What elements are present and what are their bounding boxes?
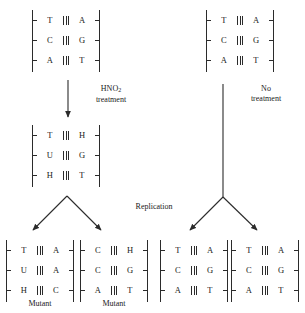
base-right: H xyxy=(126,246,135,255)
backbone-tick-left xyxy=(32,175,37,176)
base-pair-row: H C xyxy=(6,283,74,297)
dna-ladder-bottom-4: T A C G A T xyxy=(231,240,299,302)
left-replication-arrow-2 xyxy=(67,196,101,230)
backbone-tick-right xyxy=(143,290,148,291)
base-right: A xyxy=(78,16,87,25)
hydrogen-bonds xyxy=(63,36,69,45)
base-left: C xyxy=(219,36,228,45)
backbone-tick-left xyxy=(206,40,211,41)
replication-label: Replication xyxy=(124,202,184,212)
backbone-tick-right xyxy=(223,290,228,291)
hydrogen-bonds xyxy=(262,246,268,255)
base-pair-row: C H xyxy=(80,243,148,257)
backbone-tick-left xyxy=(80,250,85,251)
dna-ladder-bottom-2: C H C G A T xyxy=(80,240,148,302)
backbone-tick-left xyxy=(206,20,211,21)
dna-mutagenesis-figure: T A C G A T T A xyxy=(0,0,305,313)
dna-ladder-top-right: T A C G A T xyxy=(206,10,274,72)
backbone-tick-right xyxy=(223,270,228,271)
dna-ladder-middle-left: T H U G H T xyxy=(32,125,100,187)
base-right: A xyxy=(52,266,61,275)
base-left: A xyxy=(244,286,253,295)
base-left: C xyxy=(244,266,253,275)
backbone-tick-right xyxy=(294,270,299,271)
base-pair-row: C G xyxy=(80,263,148,277)
base-pair-row: A T xyxy=(32,53,100,67)
base-pair-row: U A xyxy=(6,263,74,277)
hydrogen-bonds xyxy=(111,246,117,255)
backbone-tick-left xyxy=(6,270,11,271)
base-pair-row: A T xyxy=(160,283,228,297)
hydrogen-bonds xyxy=(191,266,197,275)
backbone-tick-left xyxy=(160,290,165,291)
base-pair-row: H T xyxy=(32,168,100,182)
backbone-tick-left xyxy=(206,60,211,61)
hydrogen-bonds xyxy=(63,171,69,180)
base-pair-row: T A xyxy=(206,13,274,27)
base-right: T xyxy=(78,56,87,65)
base-right: A xyxy=(252,16,261,25)
backbone-tick-left xyxy=(160,270,165,271)
hydrogen-bonds xyxy=(237,16,243,25)
base-left: H xyxy=(19,286,28,295)
right-replication-arrow-1 xyxy=(190,197,223,230)
backbone-tick-right xyxy=(269,40,274,41)
backbone-tick-left xyxy=(32,60,37,61)
hydrogen-bonds xyxy=(237,56,243,65)
base-pair-row: A T xyxy=(231,283,299,297)
hydrogen-bonds xyxy=(37,286,43,295)
backbone-tick-left xyxy=(6,250,11,251)
base-pair-row: C G xyxy=(206,33,274,47)
backbone-tick-right xyxy=(269,60,274,61)
backbone-tick-left xyxy=(231,290,236,291)
backbone-tick-left xyxy=(6,290,11,291)
backbone-tick-right xyxy=(95,175,100,176)
base-left: A xyxy=(45,56,54,65)
base-pair-row: T A xyxy=(231,243,299,257)
base-left: A xyxy=(173,286,182,295)
hydrogen-bonds xyxy=(191,246,197,255)
no-treatment-line-1: No xyxy=(261,84,271,93)
backbone-tick-right xyxy=(95,40,100,41)
backbone-tick-right xyxy=(294,250,299,251)
backbone-tick-right xyxy=(95,20,100,21)
base-right: G xyxy=(252,36,261,45)
base-right: T xyxy=(277,286,286,295)
hydrogen-bonds xyxy=(111,286,117,295)
base-pair-row: T A xyxy=(6,243,74,257)
base-right: T xyxy=(78,171,87,180)
base-right: T xyxy=(252,56,261,65)
base-right: G xyxy=(126,266,135,275)
backbone-tick-right xyxy=(69,270,74,271)
base-right: G xyxy=(206,266,215,275)
backbone-tick-left xyxy=(160,250,165,251)
hydrogen-bonds xyxy=(37,246,43,255)
base-right: A xyxy=(206,246,215,255)
base-left: C xyxy=(45,36,54,45)
dna-ladder-bottom-3: T A C G A T xyxy=(160,240,228,302)
hno2-treatment-word: treatment xyxy=(96,95,126,104)
base-pair-row: T A xyxy=(160,243,228,257)
backbone-tick-left xyxy=(32,40,37,41)
base-right: G xyxy=(277,266,286,275)
backbone-tick-right xyxy=(95,155,100,156)
base-pair-row: C G xyxy=(32,33,100,47)
hydrogen-bonds xyxy=(63,151,69,160)
backbone-tick-left xyxy=(231,250,236,251)
backbone-tick-right xyxy=(223,250,228,251)
base-pair-row: T H xyxy=(32,128,100,142)
base-left: C xyxy=(173,266,182,275)
backbone-tick-left xyxy=(80,290,85,291)
hydrogen-bonds xyxy=(63,56,69,65)
base-right: H xyxy=(78,131,87,140)
base-left: A xyxy=(93,286,102,295)
hydrogen-bonds xyxy=(237,36,243,45)
base-pair-row: U G xyxy=(32,148,100,162)
hydrogen-bonds xyxy=(63,16,69,25)
base-right: T xyxy=(206,286,215,295)
base-right: A xyxy=(277,246,286,255)
base-left: T xyxy=(173,246,182,255)
hydrogen-bonds xyxy=(191,286,197,295)
backbone-tick-right xyxy=(69,250,74,251)
hydrogen-bonds xyxy=(37,266,43,275)
